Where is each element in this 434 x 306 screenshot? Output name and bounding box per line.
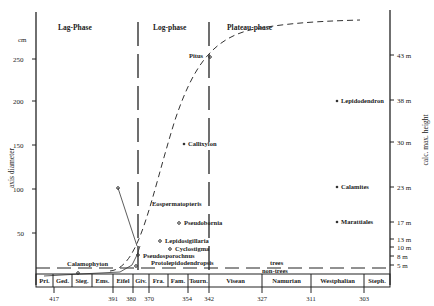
svg-text:10 m: 10 m	[397, 244, 412, 252]
svg-text:8 m: 8 m	[397, 253, 408, 261]
threshold-trees-label: trees	[270, 259, 284, 266]
svg-text:Pseudosporochnus: Pseudosporochnus	[143, 252, 195, 259]
svg-text:Callixylon: Callixylon	[188, 140, 217, 147]
svg-text:17 m: 17 m	[397, 219, 412, 227]
svg-text:370: 370	[144, 295, 154, 302]
svg-text:Ged.: Ged.	[56, 277, 70, 284]
svg-text:311: 311	[306, 295, 316, 302]
svg-text:23 m: 23 m	[397, 184, 412, 192]
svg-text:30 m: 30 m	[397, 139, 412, 147]
svg-text:13 m: 13 m	[397, 236, 412, 244]
svg-text:200: 200	[13, 98, 24, 106]
svg-text:Visean: Visean	[226, 277, 245, 284]
svg-text:Eifel: Eifel	[117, 277, 130, 284]
svg-text:Pitus: Pitus	[189, 52, 204, 59]
taxa-points: Calamophyton Pseudosporochnus Protolepid…	[67, 52, 384, 274]
svg-text:Sieg.: Sieg.	[75, 277, 89, 284]
svg-text:Ems.: Ems.	[96, 277, 110, 284]
svg-text:Namurian: Namurian	[272, 277, 301, 284]
svg-text:250: 250	[13, 56, 24, 64]
svg-text:Fam.: Fam.	[171, 277, 186, 284]
svg-text:303: 303	[359, 295, 369, 302]
point-calamites: Calamites	[336, 183, 370, 190]
growth-chart: Lag-Phase Log-phase Plateau-phase cm 250…	[0, 0, 434, 306]
point-callixylon: Callixylon	[183, 140, 217, 147]
stage-strip: Pri. Ged. Sieg. Ems. Eifel Giv. Fra. Fam…	[36, 274, 390, 287]
svg-text:380: 380	[126, 295, 136, 302]
svg-text:Cyclostigma: Cyclostigma	[175, 245, 210, 252]
svg-text:Lepidodendron: Lepidodendron	[341, 97, 384, 104]
svg-text:Fra.: Fra.	[153, 277, 165, 284]
point-lepidodendron: Lepidodendron	[336, 97, 385, 104]
phase-log-label: Log-phase	[153, 23, 187, 32]
svg-text:38 m: 38 m	[397, 97, 412, 105]
svg-text:Steph.: Steph.	[368, 277, 386, 284]
svg-text:Protolepidodendropsis: Protolepidodendropsis	[151, 259, 214, 266]
svg-text:Marattiales: Marattiales	[341, 218, 374, 225]
svg-text:Lepidosigillaria: Lepidosigillaria	[165, 237, 209, 244]
svg-text:Calamites: Calamites	[341, 183, 369, 190]
svg-text:43 m: 43 m	[397, 52, 412, 60]
svg-text:327: 327	[257, 295, 268, 302]
svg-text:Calamophyton: Calamophyton	[67, 260, 109, 267]
point-cyclostigma: Cyclostigma	[169, 245, 210, 252]
phase-plateau-label: Plateau-phase	[227, 23, 273, 32]
phase-lag-label: Lag-Phase	[58, 23, 92, 32]
svg-text:Tourn.: Tourn.	[189, 277, 208, 284]
left-axis-ticks: 250 200 150 100 50	[13, 56, 36, 238]
point-eospermatopteris: Eospermatopteris	[117, 187, 202, 207]
threshold-nontrees-label: non-trees	[262, 267, 288, 274]
left-axis-title: axis diameter	[7, 147, 16, 188]
left-axis-unit: cm	[18, 36, 27, 44]
right-axis-title: calc. max. height	[421, 113, 430, 165]
growth-curve	[110, 20, 360, 271]
point-lepidosigillaria: Lepidosigillaria	[159, 237, 210, 244]
right-axis-ticks: 43 m 38 m 30 m 23 m 17 m 13 m 10 m 8 m 5…	[390, 52, 412, 270]
svg-text:Pseudobornia: Pseudobornia	[184, 219, 223, 226]
point-pseudobornia: Pseudobornia	[178, 219, 223, 226]
eosperm-line	[118, 188, 137, 246]
svg-text:354: 354	[182, 295, 193, 302]
svg-text:Giv.: Giv.	[135, 277, 147, 284]
point-protolepidodendropsis: Protolepidodendropsis	[135, 259, 214, 267]
svg-text:Pri.: Pri.	[39, 277, 50, 284]
svg-text:342: 342	[204, 295, 214, 302]
point-pseudosporochnus: Pseudosporochnus	[137, 252, 195, 259]
point-marattiales: Marattiales	[336, 218, 374, 225]
svg-text:5 m: 5 m	[397, 262, 408, 270]
svg-text:417: 417	[49, 295, 60, 302]
svg-text:50: 50	[17, 230, 25, 238]
svg-text:Westphalian: Westphalian	[320, 277, 355, 284]
point-calamophyton: Calamophyton	[67, 260, 109, 274]
svg-text:Eospermatopteris: Eospermatopteris	[152, 200, 202, 207]
age-ticks: 417 391 380 370 354 342 327 311 303	[49, 287, 369, 302]
svg-text:391: 391	[108, 295, 118, 302]
